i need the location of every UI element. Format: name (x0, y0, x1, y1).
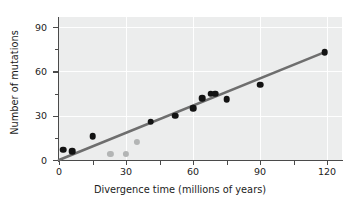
data-point (69, 148, 76, 155)
data-point (190, 105, 197, 112)
data-point (257, 81, 264, 88)
data-point (321, 49, 328, 56)
scatter-chart-figure: 90 60 30 0 0 30 60 90 120 Divergence tim… (0, 0, 360, 209)
data-point (60, 146, 67, 153)
y-axis-title: Number of mutations (9, 18, 20, 148)
data-point (89, 133, 96, 140)
data-point (147, 118, 154, 125)
data-point (172, 112, 179, 119)
regression-line (0, 0, 360, 209)
x-axis-title: Divergence time (millions of years) (0, 184, 360, 195)
data-point (223, 96, 230, 103)
data-point (212, 90, 219, 97)
data-point (199, 95, 206, 102)
